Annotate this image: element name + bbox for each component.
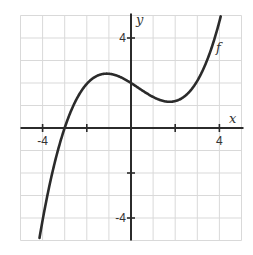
curve-label-f: f: [215, 40, 223, 55]
axis-labels: x y f: [135, 12, 237, 126]
x-tick-label: 4: [216, 134, 223, 148]
function-graph: x y f -444-4: [0, 0, 253, 255]
y-tick-label: 4: [119, 31, 126, 45]
axes: [21, 14, 244, 241]
x-tick-label: -4: [37, 134, 48, 148]
x-axis-label: x: [229, 111, 237, 126]
y-tick-label: -4: [115, 211, 126, 225]
y-axis-label: y: [135, 12, 144, 27]
